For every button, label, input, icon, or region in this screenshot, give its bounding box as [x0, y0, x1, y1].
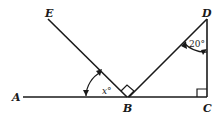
angle-x-arc — [86, 72, 101, 96]
line-bd — [129, 19, 207, 97]
label-c: C — [203, 102, 212, 115]
label-a: A — [11, 91, 21, 104]
right-angle-marker-c — [197, 89, 207, 97]
label-b: B — [122, 102, 132, 115]
label-d: D — [201, 7, 212, 20]
line-eb — [48, 19, 127, 97]
label-e: E — [44, 7, 54, 20]
angle-20-label: 20° — [189, 39, 205, 49]
angle-x-label: x° — [102, 86, 112, 96]
angle-x-arrowhead-bottom — [83, 90, 89, 96]
right-angle-marker-b — [121, 85, 134, 97]
geometry-diagram: A B C D E x° 20° — [0, 0, 223, 115]
